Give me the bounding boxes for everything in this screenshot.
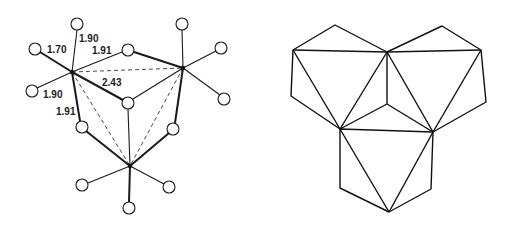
octahedron-outline bbox=[340, 129, 433, 212]
metal-atom bbox=[70, 70, 74, 74]
cluster-diagram: 1.90 1.70 1.91 2.43 1.90 1.91 bbox=[26, 18, 230, 214]
bond bbox=[130, 133, 169, 166]
bond bbox=[128, 109, 130, 166]
figure-canvas: 1.90 1.70 1.91 2.43 1.90 1.91 bbox=[0, 0, 510, 232]
bond bbox=[129, 166, 130, 202]
bond bbox=[133, 68, 183, 99]
ligand-atom bbox=[29, 43, 41, 55]
bond bbox=[130, 166, 164, 184]
metal-metal-distance-label: 2.43 bbox=[102, 77, 122, 88]
polyhedron-edge bbox=[433, 50, 481, 132]
bond bbox=[40, 52, 72, 72]
polyhedron-edge bbox=[387, 50, 481, 52]
polyhedron-edge bbox=[293, 50, 387, 52]
bond bbox=[72, 30, 77, 72]
bridging-atom bbox=[122, 44, 134, 56]
bond-length-label: 1.91 bbox=[56, 106, 76, 117]
ligand-atom bbox=[76, 179, 88, 191]
octahedron-outline bbox=[291, 25, 387, 129]
metal-metal-contact bbox=[72, 68, 183, 72]
bond-length-label: 1.90 bbox=[43, 89, 63, 100]
ligand-atom bbox=[215, 42, 227, 54]
bond-length-label: 1.70 bbox=[47, 44, 67, 55]
bond bbox=[134, 52, 183, 68]
central-atom bbox=[122, 97, 134, 109]
octahedron-outline bbox=[387, 26, 486, 132]
ligand-atom bbox=[218, 93, 230, 105]
bond bbox=[183, 51, 216, 68]
bond-length-label: 1.90 bbox=[79, 33, 99, 44]
ligand-atom bbox=[71, 18, 83, 30]
bond bbox=[88, 166, 130, 183]
bond bbox=[86, 131, 130, 166]
metal-atom bbox=[181, 66, 185, 70]
metal-atom bbox=[128, 164, 132, 168]
polyhedron-edge bbox=[293, 50, 340, 129]
polyhedral-diagram bbox=[291, 25, 486, 212]
bond bbox=[37, 72, 72, 88]
bridging-atom bbox=[76, 121, 88, 133]
bridging-atom bbox=[167, 123, 179, 135]
bond bbox=[183, 68, 220, 95]
ligand-atom bbox=[26, 85, 38, 97]
ligand-atom bbox=[163, 181, 175, 193]
ligand-atom bbox=[123, 202, 135, 214]
bond bbox=[182, 30, 183, 68]
ligand-atom bbox=[176, 18, 188, 30]
polyhedron-edge bbox=[387, 104, 433, 132]
bond-length-label: 1.91 bbox=[92, 45, 112, 56]
